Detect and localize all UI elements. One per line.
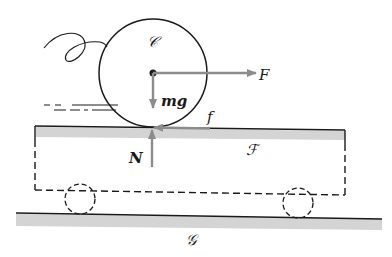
friction-arrow: [154, 128, 210, 129]
wheel-right: [283, 188, 313, 218]
ground: [16, 213, 382, 230]
gravity-label: mg: [161, 92, 187, 110]
frame-label: ℱ: [246, 141, 261, 159]
friction-label: f: [206, 108, 215, 126]
motion-squiggle: [44, 33, 107, 61]
cylinder-label: 𝒞: [147, 33, 162, 51]
ground-label: 𝒢: [186, 231, 199, 249]
speed-lines: [44, 105, 118, 110]
normal-label: N: [128, 149, 144, 167]
frame-dashed-outline: [35, 140, 345, 195]
force-F-label: F: [258, 66, 270, 84]
physics-diagram: 𝒞 mg F f N ℱ 𝒢: [0, 0, 392, 257]
wheel-left: [65, 184, 95, 214]
